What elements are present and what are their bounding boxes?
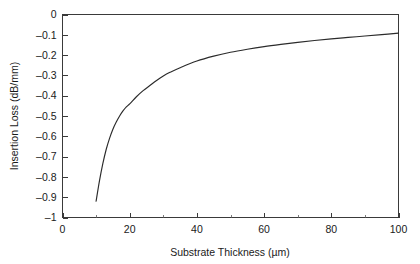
y-tick-label: –1 — [45, 211, 57, 223]
y-tick-label: –0.9 — [36, 191, 57, 203]
y-tick-label: –0.8 — [36, 171, 57, 183]
insertion-loss-line-chart: 020406080100 0–0.1–0.2–0.3–0.4–0.5–0.6–0… — [0, 0, 420, 264]
y-tick-label: –0.3 — [36, 69, 57, 81]
y-tick-label: –0.2 — [36, 49, 57, 61]
chart-figure: 020406080100 0–0.1–0.2–0.3–0.4–0.5–0.6–0… — [0, 0, 420, 264]
y-tick-label: 0 — [51, 8, 57, 20]
y-tick-label: –0.4 — [36, 89, 57, 101]
y-tick-label: –0.1 — [36, 29, 57, 41]
y-axis-major-ticks — [63, 16, 68, 219]
x-tick-label: 40 — [191, 223, 203, 235]
x-tick-label: 60 — [258, 223, 270, 235]
x-axis-tick-labels: 020406080100 — [60, 223, 408, 235]
y-tick-label: –0.7 — [36, 150, 57, 162]
x-tick-label: 20 — [124, 223, 136, 235]
x-tick-label: 0 — [60, 223, 66, 235]
y-axis-tick-labels: 0–0.1–0.2–0.3–0.4–0.5–0.6–0.7–0.8–0.9–1 — [36, 8, 57, 223]
y-axis-title: Insertion Loss (dB/mm) — [8, 62, 20, 171]
y-tick-label: –0.5 — [36, 110, 57, 122]
insertion-loss-curve — [96, 33, 398, 201]
x-axis-title: Substrate Thickness (µm) — [170, 246, 290, 258]
y-tick-label: –0.6 — [36, 130, 57, 142]
plot-frame — [63, 15, 399, 218]
data-series-group — [96, 33, 398, 201]
x-tick-label: 80 — [325, 223, 337, 235]
x-tick-label: 100 — [390, 223, 408, 235]
